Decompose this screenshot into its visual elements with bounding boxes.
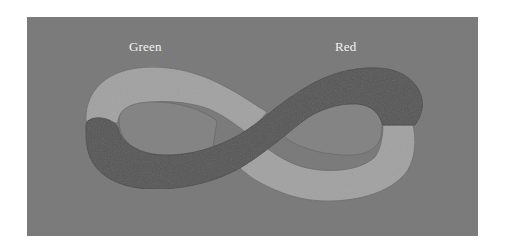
infinity-band-diagram [27,17,478,236]
label-red: Red [335,39,357,55]
figure-panel: Green Red [27,17,478,236]
label-green: Green [129,39,162,55]
